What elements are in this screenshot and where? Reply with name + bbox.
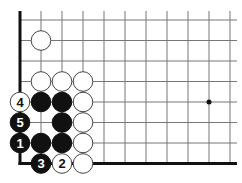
- white-stone: [31, 72, 51, 92]
- move-number-label: 3: [37, 156, 44, 171]
- move-number-label: 5: [16, 115, 23, 130]
- white-stone: [73, 72, 93, 92]
- black-stone: [31, 133, 51, 153]
- star-points: [207, 100, 212, 105]
- black-stone-icon: [52, 113, 72, 133]
- white-stone-icon: [73, 133, 93, 153]
- white-stone-icon: [31, 72, 51, 92]
- white-stone: [73, 154, 93, 174]
- black-stone: [52, 133, 72, 153]
- black-stone-icon: [52, 133, 72, 153]
- black-stone: [31, 92, 51, 112]
- white-stone: [52, 72, 72, 92]
- move-number-label: 2: [58, 156, 65, 171]
- board-edges: [19, 11, 238, 165]
- black-stone: [52, 92, 72, 112]
- black-stone-icon: [52, 92, 72, 112]
- go-board-diagram: 45132: [0, 0, 242, 183]
- white-stone-icon: [73, 154, 93, 174]
- black-stone: [52, 113, 72, 133]
- white-stone-icon: [52, 72, 72, 92]
- move-number-label: 4: [16, 95, 24, 110]
- white-stone: [73, 113, 93, 133]
- white-stone-icon: [73, 72, 93, 92]
- star-point-icon: [207, 100, 212, 105]
- white-stone: [73, 92, 93, 112]
- white-stone-icon: [73, 92, 93, 112]
- white-stone: 2: [52, 154, 72, 174]
- white-stone: [73, 133, 93, 153]
- black-stone-icon: [31, 92, 51, 112]
- white-stone-icon: [73, 113, 93, 133]
- black-stone-icon: [31, 133, 51, 153]
- move-number-label: 1: [16, 136, 23, 151]
- white-stone: 4: [10, 92, 30, 112]
- black-stone: 3: [31, 154, 51, 174]
- black-stone: 1: [10, 133, 30, 153]
- black-stone: 5: [10, 113, 30, 133]
- white-stone: [31, 31, 51, 51]
- go-board: 45132: [0, 0, 242, 183]
- white-stone-icon: [31, 31, 51, 51]
